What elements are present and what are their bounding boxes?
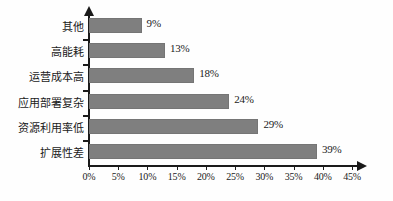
x-axis-tick-label: 30%	[249, 171, 279, 182]
y-axis-category-label: 其他	[2, 18, 88, 34]
y-axis-category-label: 应用部署复杂	[2, 94, 88, 110]
bar-value-label: 13%	[170, 42, 190, 54]
plot-area: 39%29%24%18%13%9%	[89, 14, 352, 165]
x-axis-tick-label: 15%	[162, 171, 192, 182]
bar[interactable]	[89, 43, 165, 58]
bar[interactable]	[89, 119, 258, 134]
x-axis-tick-label: 5%	[103, 171, 133, 182]
y-axis-category-label: 扩展性差	[2, 144, 88, 160]
x-axis-tick	[323, 165, 324, 170]
bar-row: 24%	[89, 90, 352, 114]
bar-value-label: 29%	[263, 118, 283, 130]
bar-chart: 0%5%10%15%20%25%30%35%40%45% 扩展性差资源利用率低应…	[0, 0, 393, 201]
x-axis-tick-label: 40%	[308, 171, 338, 182]
arrow-right-icon	[357, 161, 367, 171]
x-axis-tick-label: 0%	[74, 171, 104, 182]
bar[interactable]	[89, 144, 317, 159]
x-axis-tick	[177, 165, 178, 170]
y-axis-category-labels: 扩展性差资源利用率低应用部署复杂运营成本高高能耗其他	[0, 14, 88, 165]
x-axis-tick-label: 10%	[132, 171, 162, 182]
bar-value-label: 39%	[322, 143, 342, 155]
x-axis-tick-label: 25%	[220, 171, 250, 182]
x-axis-tick	[264, 165, 265, 170]
bar-value-label: 24%	[234, 93, 254, 105]
y-axis-category-label: 资源利用率低	[2, 119, 88, 135]
bar[interactable]	[89, 18, 142, 33]
bar-value-label: 9%	[147, 17, 161, 29]
bar[interactable]	[89, 68, 194, 83]
bar-row: 9%	[89, 14, 352, 38]
x-axis-tick	[294, 165, 295, 170]
bar-row: 13%	[89, 39, 352, 63]
y-axis-category-label: 运营成本高	[2, 68, 88, 84]
bar-row: 39%	[89, 140, 352, 164]
x-axis-line	[88, 165, 358, 167]
bar-row: 18%	[89, 64, 352, 88]
x-axis-tick	[89, 165, 90, 170]
bar-row: 29%	[89, 115, 352, 139]
x-axis-tick	[147, 165, 148, 170]
x-axis-tick	[235, 165, 236, 170]
x-axis-tick-label: 35%	[279, 171, 309, 182]
bar-value-label: 18%	[199, 67, 219, 79]
x-axis-tick-label: 45%	[337, 171, 367, 182]
x-axis-tick	[118, 165, 119, 170]
x-axis-tick-label: 20%	[191, 171, 221, 182]
x-axis-tick	[206, 165, 207, 170]
bar[interactable]	[89, 94, 229, 109]
x-axis-tick	[352, 165, 353, 170]
y-axis-category-label: 高能耗	[2, 43, 88, 59]
